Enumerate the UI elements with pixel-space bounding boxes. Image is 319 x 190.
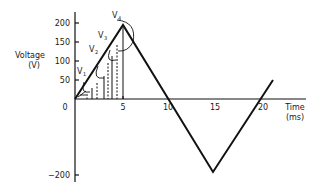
x-axis-unit: (ms)	[286, 113, 304, 122]
x-tick-20: 20	[258, 103, 268, 112]
y-axis-label: Voltage	[15, 51, 45, 60]
v3-label: V 3	[98, 31, 107, 41]
svg-text:1: 1	[83, 71, 86, 77]
v1-arc	[83, 82, 90, 92]
y-tick-100: 100	[55, 57, 70, 66]
y-tick-200: 200	[55, 19, 70, 28]
x-tick-15: 15	[210, 103, 220, 112]
y-axis-unit: (V)	[28, 61, 40, 70]
x-tick-5: 5	[120, 103, 125, 112]
v4-arc	[117, 20, 134, 51]
v2-arc	[96, 66, 104, 78]
v1-label: V 1	[77, 67, 86, 77]
y-tick-neg200: −200	[48, 171, 70, 180]
y-tick-150: 150	[55, 38, 70, 47]
svg-text:4: 4	[118, 15, 121, 21]
svg-text:3: 3	[104, 35, 107, 41]
v4-label: V 4	[112, 11, 121, 21]
v2-label: V 2	[89, 45, 98, 55]
origin-label: 0	[62, 103, 67, 112]
voltage-time-diagram: 200 150 100 50 −200 0 5 10 15 20 Voltage…	[0, 0, 319, 190]
svg-text:2: 2	[95, 49, 98, 55]
x-axis-label: Time	[284, 103, 305, 112]
y-tick-50: 50	[60, 76, 70, 85]
